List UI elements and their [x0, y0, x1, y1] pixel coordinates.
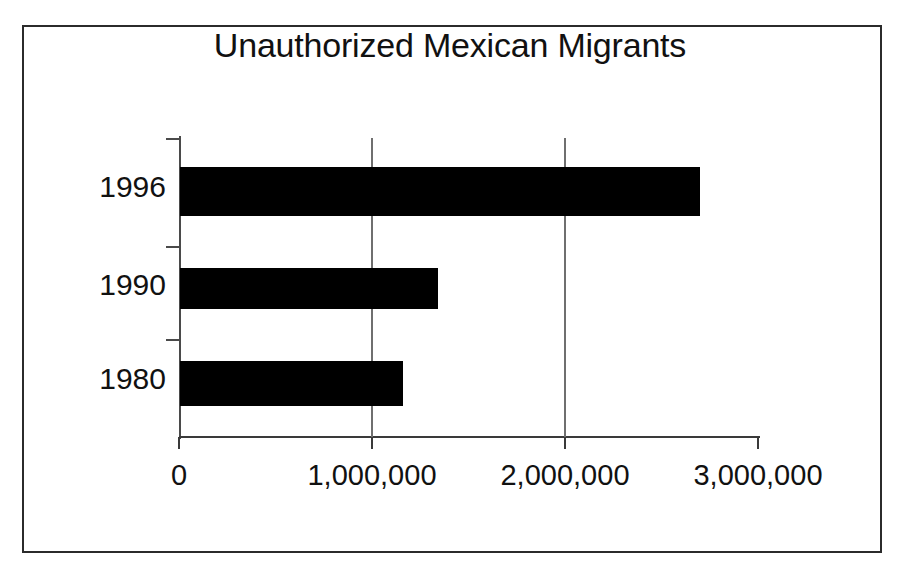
- bar-1980: [180, 361, 403, 406]
- chart-screenshot: Unauthorized Mexican Migrants 01,000,000…: [0, 0, 900, 574]
- y-axis-tick-1990: [166, 246, 180, 248]
- category-label-1980: 1980: [56, 362, 166, 396]
- x-axis-tick-3000000: [757, 437, 759, 449]
- x-axis-tick-0: [178, 437, 180, 449]
- bar-1990: [180, 268, 438, 309]
- x-axis-tick-label-2000000: 2,000,000: [500, 459, 629, 492]
- bar-1996: [180, 167, 700, 216]
- x-axis-tick-2000000: [564, 437, 566, 449]
- y-axis-tick-1996: [166, 138, 180, 140]
- chart-title: Unauthorized Mexican Migrants: [0, 26, 900, 65]
- x-axis-tick-1000000: [371, 437, 373, 449]
- y-axis-tick-1980: [166, 339, 180, 341]
- category-label-1996: 1996: [56, 170, 166, 204]
- x-axis-tick-label-1000000: 1,000,000: [307, 459, 436, 492]
- x-axis-tick-label-0: 0: [171, 459, 187, 492]
- category-label-1990: 1990: [56, 268, 166, 302]
- x-axis-tick-label-3000000: 3,000,000: [693, 459, 822, 492]
- x-axis-line: [179, 436, 760, 438]
